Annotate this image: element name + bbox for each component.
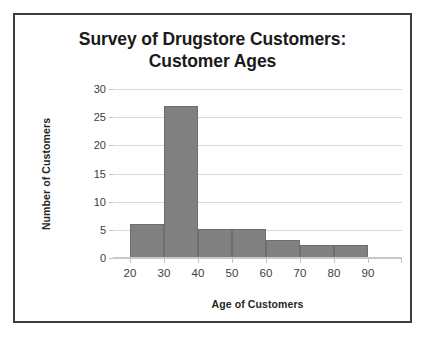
plot-area: 051015202530 2030405060708090: [113, 89, 402, 258]
y-axis-title: Number of Customers: [39, 89, 53, 258]
x-axis-end-mark: [401, 258, 402, 263]
y-tick-label-10: 10: [94, 196, 106, 208]
y-tick-label-15: 15: [94, 168, 106, 180]
y-axis-title-label: Number of Customers: [40, 117, 52, 229]
x-tick-mark-80: [334, 258, 335, 263]
x-tick-mark-30: [164, 258, 165, 263]
x-tick-label-60: 60: [260, 267, 273, 279]
y-tick-label-25: 25: [94, 111, 106, 123]
y-tick-mark-0: [109, 258, 113, 259]
gridline-y-0: [113, 258, 402, 259]
x-tick-label-20: 20: [124, 267, 137, 279]
x-tick-label-40: 40: [192, 267, 205, 279]
bar-40-50: [198, 229, 232, 258]
x-tick-mark-20: [130, 258, 131, 263]
x-axis-title: Age of Customers: [113, 298, 402, 310]
bar-20-30: [130, 224, 164, 258]
x-axis-title-label: Age of Customers: [211, 298, 303, 310]
x-tick-mark-60: [266, 258, 267, 263]
y-tick-label-20: 20: [94, 139, 106, 151]
x-tick-label-80: 80: [328, 267, 341, 279]
plot-wrapper: Number of Customers 051015202530 2030405…: [15, 15, 410, 321]
bar-50-60: [232, 229, 266, 258]
x-tick-label-90: 90: [362, 267, 375, 279]
x-tick-mark-50: [232, 258, 233, 263]
bar-30-40: [164, 106, 198, 258]
x-tick-label-50: 50: [226, 267, 239, 279]
x-tick-label-30: 30: [158, 267, 171, 279]
x-tick-label-70: 70: [294, 267, 307, 279]
x-tick-mark-90: [368, 258, 369, 263]
chart-frame: Survey of Drugstore Customers: Customer …: [13, 13, 412, 323]
y-tick-label-0: 0: [100, 252, 106, 264]
bar-60-70: [266, 240, 300, 258]
x-tick-mark-40: [198, 258, 199, 263]
x-tick-mark-70: [300, 258, 301, 263]
x-axis-line: [113, 257, 402, 258]
y-tick-label-30: 30: [94, 83, 106, 95]
bar-series: [113, 89, 402, 258]
y-tick-label-5: 5: [100, 224, 106, 236]
